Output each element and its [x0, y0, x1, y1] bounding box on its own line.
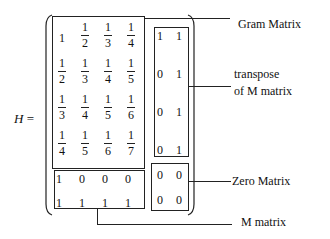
numerator: 1: [124, 94, 138, 105]
fraction-entry: 13: [55, 94, 69, 121]
transpose-label-line2: of M matrix: [234, 84, 292, 98]
matrix-entry: 1: [75, 197, 89, 209]
matrix-entry: 0: [153, 106, 167, 118]
denominator: 5: [124, 74, 138, 85]
fraction-entry: 12: [78, 22, 92, 49]
numerator: 1: [124, 22, 138, 33]
fraction-entry: 15: [101, 94, 115, 121]
matrix-entry: 0: [153, 169, 167, 181]
denominator: 4: [55, 146, 69, 157]
denominator: 4: [101, 74, 115, 85]
denominator: 5: [78, 146, 92, 157]
matrix-entry: 1: [172, 68, 186, 80]
matrix-entry: 1: [52, 173, 66, 185]
numerator: 1: [124, 58, 138, 69]
numerator: 1: [101, 22, 115, 33]
denominator: 4: [78, 110, 92, 121]
zero-matrix-label: Zero Matrix: [232, 174, 290, 188]
numerator: 1: [55, 130, 69, 141]
numerator: 1: [55, 58, 69, 69]
matrix-entry: 0: [98, 173, 112, 185]
denominator: 2: [78, 38, 92, 49]
equals-sign: =: [27, 111, 34, 126]
fraction-entry: 16: [101, 130, 115, 157]
gram-matrix-label: Gram Matrix: [238, 17, 301, 31]
numerator: 1: [101, 130, 115, 141]
fraction-entry: 14: [101, 58, 115, 85]
matrix-entry: 1: [121, 197, 135, 209]
transpose-leader-line: [188, 86, 231, 87]
h-variable: H: [14, 111, 23, 126]
denominator: 3: [55, 110, 69, 121]
transpose-label-line1: transpose: [234, 67, 279, 81]
numerator: 1: [101, 94, 115, 105]
denominator: 6: [101, 146, 115, 157]
numerator: 1: [78, 58, 92, 69]
fraction-entry: 12: [55, 58, 69, 85]
fraction-entry: 15: [124, 58, 138, 85]
fraction-entry: 15: [78, 130, 92, 157]
matrix-entry: 0: [75, 173, 89, 185]
numerator: 1: [124, 130, 138, 141]
m-leader-vertical: [97, 209, 98, 224]
denominator: 3: [101, 38, 115, 49]
matrix-entry: 0: [153, 194, 167, 206]
matrix-entry: 0: [172, 194, 186, 206]
fraction-entry: 13: [101, 22, 115, 49]
matrix-entry: 1: [172, 106, 186, 118]
fraction-entry: 13: [78, 58, 92, 85]
fraction-entry: 16: [124, 94, 138, 121]
zero-leader-line: [189, 181, 231, 182]
m-matrix-label: M matrix: [241, 215, 286, 229]
matrix-entry: 1: [172, 144, 186, 156]
fraction-entry: 17: [124, 130, 138, 157]
m-leader-horizontal: [97, 224, 232, 225]
denominator: 7: [124, 146, 138, 157]
denominator: 6: [124, 110, 138, 121]
denominator: 5: [101, 110, 115, 121]
matrix-entry: 1: [172, 30, 186, 42]
numerator: 1: [78, 130, 92, 141]
denominator: 3: [78, 74, 92, 85]
denominator: 2: [55, 74, 69, 85]
denominator: 4: [124, 38, 138, 49]
numerator: 1: [78, 22, 92, 33]
fraction-entry: 14: [124, 22, 138, 49]
matrix-entry: 1: [153, 30, 167, 42]
matrix-entry: 0: [121, 173, 135, 185]
matrix-entry: 1: [55, 32, 69, 44]
transpose-matrix-box: [154, 27, 189, 157]
numerator: 1: [78, 94, 92, 105]
numerator: 1: [101, 58, 115, 69]
matrix-entry: 1: [98, 197, 112, 209]
gram-leader-line: [145, 18, 230, 19]
matrix-entry: 1: [52, 197, 66, 209]
matrix-entry: 0: [172, 169, 186, 181]
numerator: 1: [55, 94, 69, 105]
fraction-entry: 14: [78, 94, 92, 121]
fraction-entry: 14: [55, 130, 69, 157]
matrix-entry: 0: [153, 68, 167, 80]
lhs-expression: H =: [14, 111, 34, 127]
matrix-entry: 0: [153, 144, 167, 156]
